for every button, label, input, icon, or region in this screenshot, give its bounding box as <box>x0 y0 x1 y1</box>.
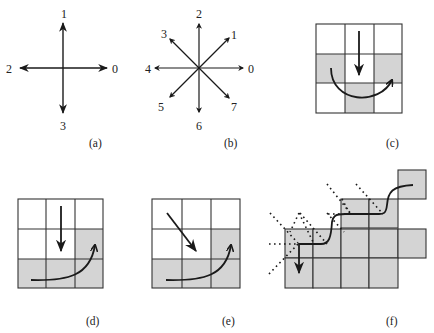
arrow-group-4dir <box>20 23 107 113</box>
shaded-cell <box>398 229 426 258</box>
panel-c: (c) <box>316 24 402 150</box>
code-label-6: 6 <box>196 119 202 133</box>
code-label-2: 2 <box>6 62 12 76</box>
caption-f: (f) <box>386 315 398 328</box>
code-label-3: 3 <box>161 27 167 41</box>
arrow-7-downright <box>199 68 229 98</box>
code-label-5: 5 <box>158 100 164 114</box>
code-label-1: 1 <box>231 28 237 42</box>
code-label-1: 1 <box>61 7 67 21</box>
shaded-region <box>285 170 426 288</box>
code-label-3: 3 <box>60 119 66 133</box>
shaded-cell <box>211 229 240 259</box>
code-label-4: 4 <box>145 62 151 76</box>
arrow-3-upleft <box>170 39 199 68</box>
caption-b: (b) <box>224 137 238 150</box>
panel-b: 0 1 2 3 4 5 6 7 (b) <box>145 7 254 150</box>
shaded-cell <box>341 258 369 288</box>
shaded-cell <box>374 54 402 83</box>
caption-c: (c) <box>386 137 399 150</box>
shaded-cell <box>313 258 341 288</box>
shaded-cell <box>341 229 369 258</box>
shaded-cell <box>152 259 240 288</box>
arrow-5-downleft <box>170 68 199 97</box>
panel-f: (f) <box>269 170 426 328</box>
panel-d: (d) <box>18 199 103 328</box>
figure-canvas: 0 1 2 3 (a) 0 1 2 3 4 5 6 7 (b) <box>0 0 434 333</box>
caption-a: (a) <box>89 137 102 150</box>
shaded-cell <box>75 229 103 259</box>
shaded-cell <box>369 258 398 288</box>
panel-e: (e) <box>152 199 240 328</box>
caption-e: (e) <box>222 315 235 328</box>
code-label-2: 2 <box>196 7 202 21</box>
code-label-7: 7 <box>231 100 237 114</box>
panel-a: 0 1 2 3 (a) <box>6 7 118 150</box>
code-label-0: 0 <box>248 62 254 76</box>
shaded-cell <box>369 229 398 258</box>
shaded-cell <box>18 259 103 288</box>
code-label-0: 0 <box>112 62 118 76</box>
arrow-1-upright <box>199 38 229 68</box>
arrow-group-8dir <box>155 24 243 112</box>
caption-d: (d) <box>86 315 100 328</box>
